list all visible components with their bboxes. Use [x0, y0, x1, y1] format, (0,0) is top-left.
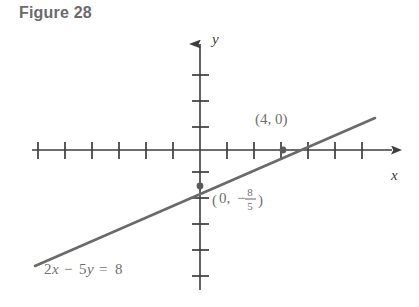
equation-coef-x: 2 — [44, 261, 52, 277]
intercept-prefix: 0, — [219, 190, 230, 206]
equation-var-y: y — [85, 261, 94, 277]
equation-var-x: x — [51, 261, 59, 277]
equation-equals: = — [99, 261, 107, 277]
intercept-minus-sign: − — [237, 190, 245, 206]
equation-label: 2 x − 5 y = 8 — [44, 261, 123, 277]
equation-coef-y: 5 — [79, 261, 87, 277]
intercept-fraction-numerator: 8 — [247, 186, 253, 198]
point-marker-x-intercept — [280, 147, 287, 154]
plotted-line — [35, 118, 375, 266]
y-axis-label: y — [210, 31, 219, 47]
intercept-paren-close: ) — [258, 192, 263, 209]
point-marker-y-intercept — [197, 183, 204, 190]
point-label-y-intercept: ( 0, − 8 5 ) — [212, 186, 263, 212]
point-label-x-intercept: (4, 0) — [255, 111, 288, 128]
intercept-paren-open: ( — [212, 192, 217, 209]
equation-minus: − — [64, 261, 72, 277]
equation-rhs: 8 — [115, 261, 123, 277]
intercept-fraction-denominator: 5 — [247, 200, 253, 212]
figure-container: Figure 28 — [0, 0, 419, 307]
x-axis-label: x — [390, 167, 398, 183]
coordinate-plane-plot: y x (4, 0) ( 0, − 8 5 ) 2 x − 5 y = 8 — [0, 0, 419, 307]
